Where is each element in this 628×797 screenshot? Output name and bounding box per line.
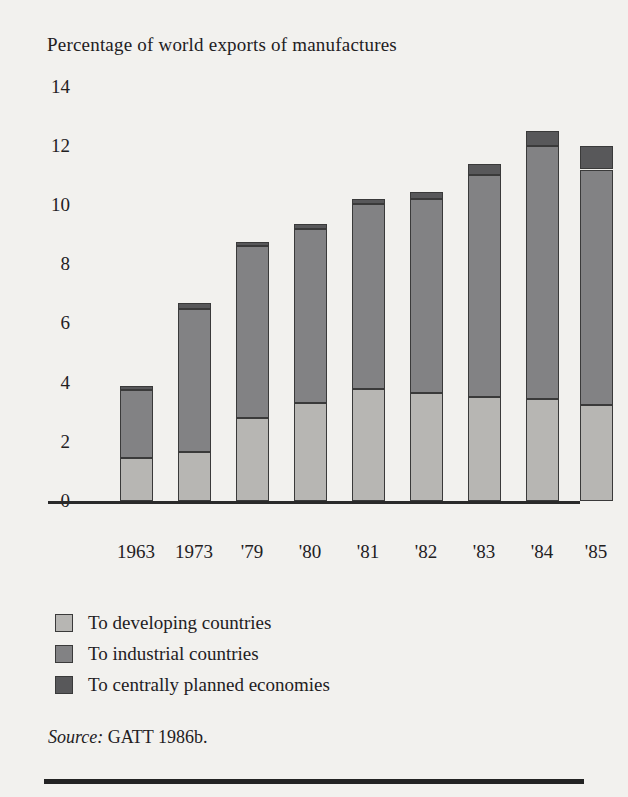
bar-85[interactable]	[580, 0, 613, 501]
chart-legend: To developing countriesTo industrial cou…	[55, 607, 330, 700]
bar-79[interactable]	[236, 0, 269, 501]
bar-84[interactable]	[526, 0, 559, 501]
legend-label-developing: To developing countries	[88, 612, 271, 634]
figure-page: Percentage of world exports of manufactu…	[0, 0, 628, 797]
bar-segment-80-developing	[294, 403, 327, 501]
legend-item-developing[interactable]: To developing countries	[55, 607, 330, 638]
bar-segment-84-industrial	[526, 146, 559, 399]
bar-segment-82-developing	[410, 393, 443, 501]
legend-item-centrally[interactable]: To centrally planned economies	[55, 669, 330, 700]
bar-81[interactable]	[352, 0, 385, 501]
bar-1973[interactable]	[178, 0, 211, 501]
bar-segment-84-developing	[526, 399, 559, 501]
bar-segment-81-industrial	[352, 204, 385, 389]
bar-segment-1963-industrial	[120, 390, 153, 458]
source-label: Source:	[48, 727, 103, 747]
x-axis-line	[48, 501, 580, 504]
legend-swatch-developing	[55, 614, 73, 632]
bar-segment-83-centrally	[468, 164, 501, 176]
bar-segment-81-centrally	[352, 199, 385, 203]
bar-segment-85-industrial	[580, 170, 613, 405]
bar-82[interactable]	[410, 0, 443, 501]
bar-segment-1973-industrial	[178, 309, 211, 453]
plot-area: 02468101214 19631973'79'80'81'82'83'84'8…	[0, 0, 628, 520]
bar-segment-80-centrally	[294, 224, 327, 228]
bar-segment-85-developing	[580, 405, 613, 501]
bar-segment-81-developing	[352, 389, 385, 501]
bars-layer	[0, 0, 628, 501]
bar-80[interactable]	[294, 0, 327, 501]
legend-swatch-centrally	[55, 676, 73, 694]
bar-segment-84-centrally	[526, 131, 559, 146]
bottom-rule	[44, 779, 584, 784]
bar-segment-1973-centrally	[178, 303, 211, 309]
bar-segment-82-industrial	[410, 199, 443, 393]
bar-segment-83-developing	[468, 397, 501, 501]
legend-swatch-industrial	[55, 645, 73, 663]
legend-label-centrally: To centrally planned economies	[88, 674, 330, 696]
x-axis-tick-85: '85	[556, 541, 628, 563]
legend-item-industrial[interactable]: To industrial countries	[55, 638, 330, 669]
bar-segment-79-centrally	[236, 242, 269, 246]
bar-segment-85-centrally	[580, 146, 613, 170]
bar-segment-80-industrial	[294, 229, 327, 404]
bar-segment-1973-developing	[178, 452, 211, 501]
bar-segment-79-developing	[236, 418, 269, 501]
legend-label-industrial: To industrial countries	[88, 643, 259, 665]
source-note: Source: GATT 1986b.	[48, 727, 207, 748]
source-value: GATT 1986b.	[108, 727, 208, 747]
bar-83[interactable]	[468, 0, 501, 501]
bar-segment-1963-centrally	[120, 386, 153, 390]
bar-segment-1963-developing	[120, 458, 153, 501]
bar-segment-83-industrial	[468, 175, 501, 397]
bar-segment-82-centrally	[410, 192, 443, 199]
bar-segment-79-industrial	[236, 246, 269, 418]
bar-1963[interactable]	[120, 0, 153, 501]
